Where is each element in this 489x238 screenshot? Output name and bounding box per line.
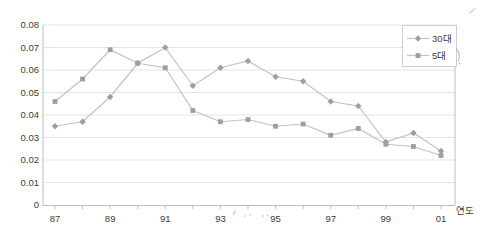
pen-mark-dot (267, 215, 268, 216)
y-tick-label: 0.01 (21, 177, 40, 188)
line-chart: 연도 00.010.020.030.040.050.060.070.088789… (0, 0, 489, 238)
pen-mark-dot (459, 63, 461, 65)
pen-mark-apostrophe (234, 211, 236, 216)
pen-mark-dot (262, 215, 263, 216)
y-tick-label: 0.03 (21, 132, 40, 143)
x-axis-title: 연도 (456, 205, 474, 216)
gridlines (43, 25, 455, 183)
x-tick-label: 91 (160, 213, 171, 224)
data-point-diamond (272, 74, 278, 80)
y-tick-label: 0.02 (21, 154, 40, 165)
data-point-diamond (410, 130, 416, 136)
y-tick-label: 0.04 (21, 109, 40, 120)
data-point-square (53, 99, 58, 104)
data-point-square (416, 53, 421, 58)
data-point-square (383, 142, 388, 147)
x-tick-label: 93 (215, 213, 226, 224)
y-tick-label: 0.06 (21, 64, 40, 75)
legend-label: 30대 (432, 33, 452, 44)
y-tick-label: 0.08 (21, 19, 40, 30)
data-point-square (190, 108, 195, 113)
data-point-square (218, 119, 223, 124)
data-point-square (108, 47, 113, 52)
pen-mark-dot (249, 215, 250, 216)
data-point-square (328, 133, 333, 138)
x-tick-label: 97 (325, 213, 336, 224)
x-tick-label: 95 (270, 213, 281, 224)
data-point-diamond (245, 58, 251, 64)
pen-mark-top-right (470, 9, 476, 14)
x-tick-label: 89 (105, 213, 116, 224)
y-tick-label: 0 (34, 199, 39, 210)
data-point-square (356, 126, 361, 131)
x-tick-label: 01 (436, 213, 447, 224)
x-tick-label: 87 (50, 213, 61, 224)
legend: 30대5대 (403, 26, 457, 67)
x-tick-label: 99 (381, 213, 392, 224)
data-point-square (411, 144, 416, 149)
y-tick-label: 0.07 (21, 42, 40, 53)
chart-image: 연도 00.010.020.030.040.050.060.070.088789… (0, 0, 489, 238)
axes (43, 25, 455, 209)
data-point-square (163, 65, 168, 70)
legend-box (403, 26, 457, 67)
legend-label: 5대 (432, 50, 446, 61)
data-point-square (246, 117, 251, 122)
pen-mark-dot (244, 215, 245, 216)
series-line-square (55, 50, 441, 156)
data-point-square (301, 122, 306, 127)
data-point-square (439, 153, 444, 158)
y-tick-label: 0.05 (21, 87, 40, 98)
data-point-square (273, 124, 278, 129)
data-point-square (80, 77, 85, 82)
data-point-square (135, 61, 140, 66)
series-lines (52, 44, 444, 158)
data-point-diamond (52, 123, 58, 129)
